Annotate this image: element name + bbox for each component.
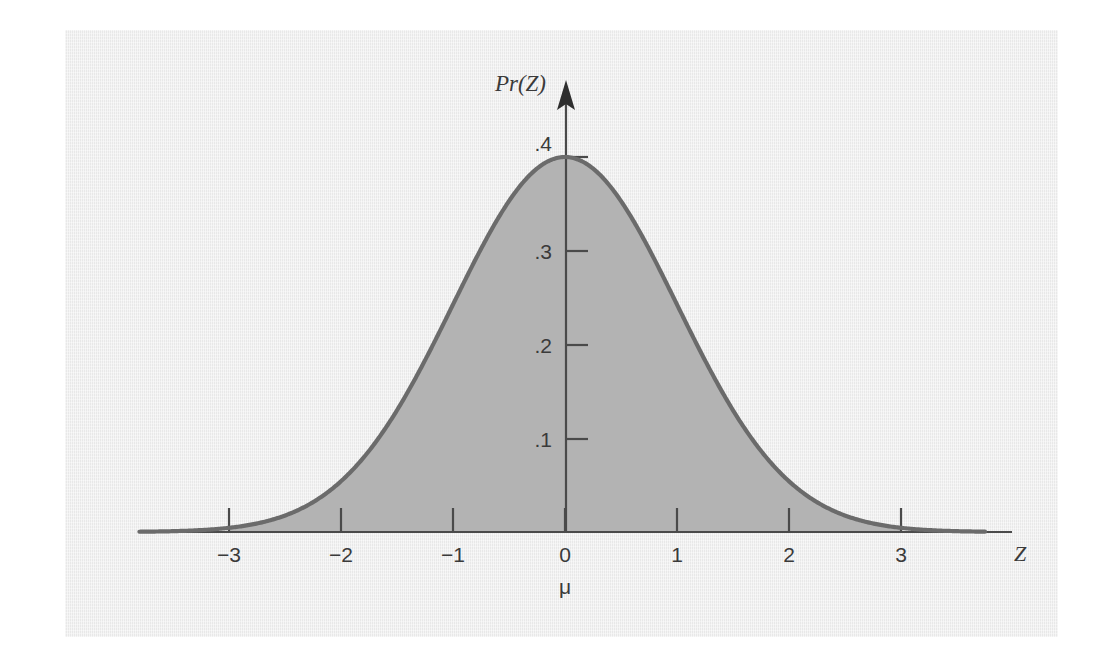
y-tick-label-0-1: .1	[512, 429, 552, 450]
y-tick-label-0-4: .4	[512, 133, 552, 154]
x-tick-label-neg1: −1	[430, 544, 476, 565]
x-tick-label-neg3: −3	[206, 544, 252, 565]
x-tick-label-neg2: −2	[318, 544, 364, 565]
y-axis-title: Pr(Z)	[426, 72, 546, 95]
x-tick-label-2: 2	[766, 544, 812, 565]
x-tick-label-1: 1	[654, 544, 700, 565]
mean-marker-label: μ	[542, 576, 588, 597]
y-tick-label-0-2: .2	[512, 335, 552, 356]
x-tick-label-0: 0	[542, 544, 588, 565]
x-tick-label-3: 3	[878, 544, 924, 565]
figure-root: Pr(Z) Z μ −3 −2 −1 0 1 2 3 .1 .2 .3 .4	[0, 0, 1104, 654]
y-tick-label-0-3: .3	[512, 241, 552, 262]
x-axis-title: Z	[1000, 543, 1040, 565]
